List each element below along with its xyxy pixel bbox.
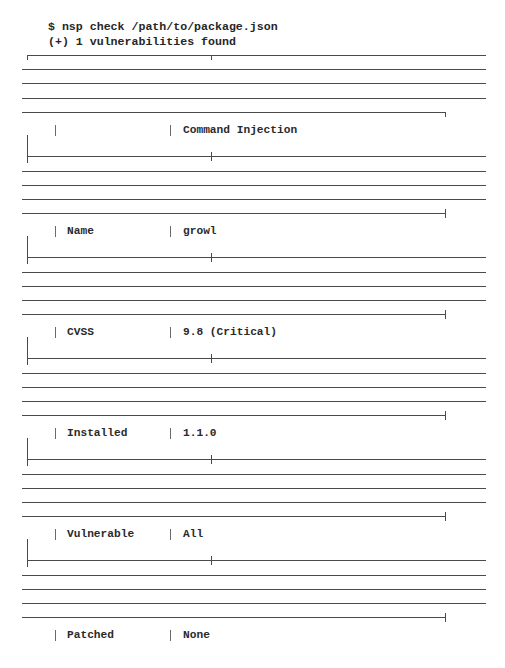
wrap-line: [22, 603, 486, 604]
cell-separator: [55, 630, 56, 641]
wrap-line: [22, 314, 445, 315]
wrap-line: [22, 112, 445, 113]
wrap-line: [22, 171, 486, 172]
row-label: Vulnerable: [67, 528, 134, 540]
corner-tick: [445, 411, 446, 420]
table-row-name: Name growl: [0, 222, 505, 323]
row-label: Patched: [67, 629, 114, 641]
summary-line: (+) 1 vulnerabilities found: [48, 35, 236, 49]
wrap-line: [22, 83, 486, 84]
cell-separator: [55, 428, 56, 439]
left-edge: [27, 337, 28, 365]
wrap-line: [22, 474, 486, 475]
corner-tick: [445, 512, 446, 521]
top-column-tick: [211, 55, 212, 60]
top-left-corner: [27, 55, 28, 60]
wrap-line: [22, 401, 486, 402]
wrap-line: [22, 199, 486, 200]
column-tick: [211, 152, 212, 161]
command-line: $ nsp check /path/to/package.json: [48, 20, 278, 34]
wrap-line: [22, 589, 486, 590]
corner-tick: [445, 310, 446, 319]
cell-separator: [170, 529, 171, 540]
cell-separator: [55, 226, 56, 237]
column-tick: [211, 253, 212, 262]
row-divider: [27, 156, 486, 157]
wrap-line: [22, 502, 486, 503]
corner-tick: [445, 112, 446, 117]
corner-tick: [445, 613, 446, 622]
row-divider: [27, 459, 486, 460]
cell-separator: [55, 327, 56, 338]
row-value: Command Injection: [183, 124, 297, 136]
left-edge: [27, 236, 28, 264]
wrap-line: [22, 488, 486, 489]
wrap-line: [22, 272, 486, 273]
corner-tick: [445, 209, 446, 218]
wrap-line: [22, 415, 445, 416]
wrap-line: [22, 69, 486, 70]
row-value: 1.1.0: [183, 427, 217, 439]
row-label: Name: [67, 225, 94, 237]
column-tick: [211, 556, 212, 565]
table-row-patched: Patched None: [0, 626, 505, 668]
column-tick: [211, 354, 212, 363]
cell-separator: [55, 529, 56, 540]
wrap-line: [22, 617, 445, 618]
wrap-line: [22, 286, 486, 287]
row-value: None: [183, 629, 210, 641]
table-row-installed: Installed 1.1.0: [0, 424, 505, 525]
left-edge: [27, 135, 28, 163]
cell-separator: [55, 125, 56, 136]
row-label: CVSS: [67, 326, 94, 338]
wrap-line: [22, 185, 486, 186]
wrap-line: [22, 575, 486, 576]
cell-separator: [170, 428, 171, 439]
table-row-title: Command Injection: [0, 121, 505, 222]
row-value: 9.8 (Critical): [183, 326, 277, 338]
wrap-line: [22, 516, 445, 517]
row-label: Installed: [67, 427, 127, 439]
cell-separator: [170, 630, 171, 641]
row-value: All: [183, 528, 203, 540]
row-divider: [27, 560, 486, 561]
row-divider: [27, 257, 486, 258]
table-row-vulnerable: Vulnerable All: [0, 525, 505, 626]
row-divider: [27, 358, 486, 359]
left-edge: [27, 438, 28, 466]
wrap-line: [22, 213, 445, 214]
cell-separator: [170, 226, 171, 237]
wrap-line: [22, 373, 486, 374]
column-tick: [211, 455, 212, 464]
wrap-line: [22, 300, 486, 301]
left-edge: [27, 539, 28, 567]
top-border-line: [27, 55, 486, 56]
wrap-line: [22, 387, 486, 388]
cell-separator: [170, 327, 171, 338]
row-value: growl: [183, 225, 217, 237]
cell-separator: [170, 125, 171, 136]
wrap-line: [22, 98, 486, 99]
table-row-cvss: CVSS 9.8 (Critical): [0, 323, 505, 424]
